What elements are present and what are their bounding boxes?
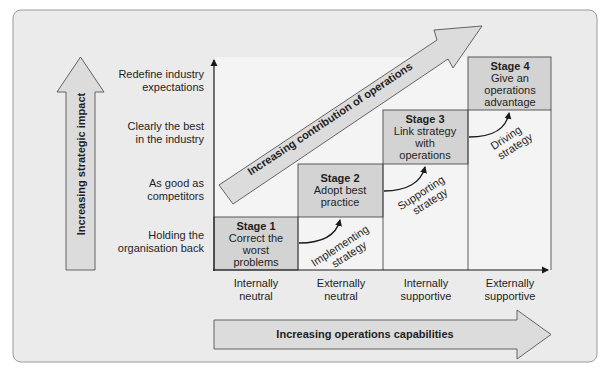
stage-1-line-3: problems [233,256,279,268]
stage-2-line-1: Adopt best [314,184,367,196]
operations-capabilities-label: Increasing operations capabilities [276,328,453,340]
stage-3-line-3: operations [399,149,451,161]
level-label-2: Clearly the best [128,120,204,132]
level-label-3b: competitors [147,190,204,202]
column-label-1: Internally [234,277,279,289]
level-label-1: Redefine industry [118,68,204,80]
level-label-1b: expectations [142,81,204,93]
column-label-2b: neutral [324,290,358,302]
column-label-4b: supportive [485,290,536,302]
stage-1-title: Stage 1 [236,220,275,232]
stage-4: Stage 4 Give an operations advantage [484,60,536,108]
strategic-impact-label: Increasing strategic impact [75,92,87,235]
level-label-4: Holding the [148,229,204,241]
stage-2-title: Stage 2 [320,172,359,184]
stage-2: Stage 2 Adopt best practice [314,172,367,208]
stage-4-title: Stage 4 [490,60,530,72]
stage-4-line-2: operations [484,84,536,96]
stage-4-line-3: advantage [484,96,535,108]
stage-3-line-2: with [414,137,435,149]
level-label-4b: organisation back [118,242,205,254]
level-label-3: As good as [149,177,205,189]
stage-3-title: Stage 3 [405,113,444,125]
level-label-2b: in the industry [136,133,205,145]
column-label-2: Externally [317,277,366,289]
column-label-4: Externally [486,277,535,289]
column-label-1b: neutral [239,290,273,302]
column-label-3: Internally [404,277,449,289]
stage-1-line-1: Correct the [229,232,283,244]
stage-3-line-1: Link strategy [394,125,457,137]
stage-4-line-1: Give an [491,72,529,84]
column-label-3b: supportive [401,290,452,302]
stage-2-line-2: practice [321,196,360,208]
stage-1-line-2: worst [242,244,269,256]
diagram-canvas: Increasing strategic impact Redefine ind… [0,0,608,380]
